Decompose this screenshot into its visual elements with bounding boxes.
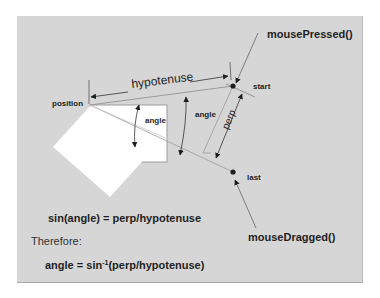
hypotenuse-label: hypotenuse: [131, 69, 195, 90]
mouse-pressed-pointer: [236, 33, 258, 83]
last-point: [230, 169, 235, 174]
diagram-stage: mousePressed() hypotenuse position start…: [0, 0, 380, 298]
outer-angle-arc: [180, 97, 186, 155]
formula-sine: sin(angle) = perp/hypotenuse: [48, 212, 201, 224]
formula-therefore: Therefore:: [31, 235, 82, 247]
position-label: position: [52, 99, 83, 108]
formula-arcsine: angle = sin-1(perp/hypotenuse): [45, 259, 205, 271]
outer-angle-label: angle: [195, 110, 216, 119]
inner-angle-label: angle: [145, 116, 166, 125]
mouse-dragged-pointer: [235, 180, 256, 228]
mouse-dragged-label: mouseDragged(): [248, 231, 336, 243]
mouse-pressed-label: mousePressed(): [267, 28, 353, 40]
start-tick: [230, 62, 231, 80]
hypotenuse-line: [90, 86, 233, 105]
start-label: start: [253, 82, 271, 91]
rotation-diagram: mousePressed() hypotenuse position start…: [0, 0, 380, 298]
last-label: last: [247, 173, 261, 182]
start-point: [230, 83, 235, 88]
start-crossline: [226, 84, 255, 97]
hypotenuse-arrow-right: [190, 76, 228, 82]
hypotenuse-arrow-left: [91, 92, 128, 97]
